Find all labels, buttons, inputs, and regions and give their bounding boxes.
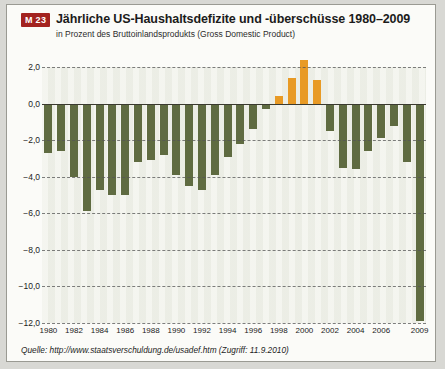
x-axis-tick-label: 2006 [372, 326, 390, 335]
x-axis-tick-label: 2002 [321, 326, 339, 335]
bar-1980 [44, 104, 52, 153]
x-axis-tick-label: 2000 [295, 326, 313, 335]
bar-1985 [108, 104, 116, 195]
bar-series [42, 67, 426, 323]
gridline [42, 213, 426, 214]
bar-1994 [224, 104, 232, 157]
bar-2002 [326, 104, 334, 131]
x-axis-tick-label: 1992 [193, 326, 211, 335]
y-axis-tick-label: −4,0 [10, 172, 40, 182]
bar-1986 [121, 104, 129, 195]
chart-subtitle: in Prozent des Bruttoinlandsprodukts (Gr… [56, 29, 295, 39]
gridline [42, 286, 426, 287]
bar-2005 [364, 104, 372, 152]
x-axis-tick-label: 1990 [167, 326, 185, 335]
gridline [42, 177, 426, 178]
y-axis-tick-label: −6,0 [10, 208, 40, 218]
y-axis-tick-label: −12,0 [10, 318, 40, 328]
y-axis-tick-label: 2,0 [10, 62, 40, 72]
gridline [42, 140, 426, 141]
x-axis-tick-label: 1994 [219, 326, 237, 335]
source-note: Quelle: http://www.staatsverschuldung.de… [21, 345, 289, 355]
zero-axis-line [42, 104, 426, 105]
bar-2006 [377, 104, 385, 139]
chart-header: M 23 Jährliche US-Haushaltsdefizite und … [15, 10, 427, 44]
x-axis-tick-label: 1998 [270, 326, 288, 335]
x-axis-tick-label: 1986 [116, 326, 134, 335]
bar-1999 [288, 78, 296, 104]
x-axis-tick-label: 1984 [91, 326, 109, 335]
x-axis-tick-label: 2004 [347, 326, 365, 335]
x-axis-tick-label: 1988 [142, 326, 160, 335]
bar-1989 [160, 104, 168, 155]
bar-2008 [403, 104, 411, 163]
y-axis-tick-label: 0,0 [10, 99, 40, 109]
bar-1988 [147, 104, 155, 161]
x-axis-tick-label: 1982 [65, 326, 83, 335]
gridline [42, 323, 426, 324]
y-axis-tick-label: −2,0 [10, 135, 40, 145]
x-axis-tick-label: 1980 [39, 326, 57, 335]
x-axis-labels: 1980198219841986198819901992199419961998… [42, 326, 426, 340]
bar-1995 [236, 104, 244, 144]
material-badge: M 23 [21, 13, 50, 27]
bar-2003 [339, 104, 347, 168]
x-axis-tick-label: 1996 [244, 326, 262, 335]
gridline [42, 67, 426, 68]
bar-1998 [275, 96, 283, 103]
bar-2007 [390, 104, 398, 126]
bar-1991 [185, 104, 193, 186]
page-title: Jährliche US-Haushaltsdefizite und -über… [56, 12, 410, 26]
x-axis-tick-label: 2009 [411, 326, 429, 335]
y-axis-tick-label: −10,0 [10, 281, 40, 291]
plot-area [42, 67, 426, 323]
bar-1983 [83, 104, 91, 212]
bar-2001 [313, 80, 321, 104]
bar-1987 [134, 104, 142, 163]
y-axis-tick-label: −8,0 [10, 245, 40, 255]
y-axis-labels: 2,00,0−2,0−4,0−6,0−8,0−10,0−12,0 [7, 67, 40, 323]
gridline [42, 250, 426, 251]
chart-panel: M 23 Jährliche US-Haushaltsdefizite und … [6, 4, 436, 362]
bar-2004 [352, 104, 360, 170]
bar-1996 [249, 104, 257, 130]
bar-1981 [57, 104, 65, 152]
